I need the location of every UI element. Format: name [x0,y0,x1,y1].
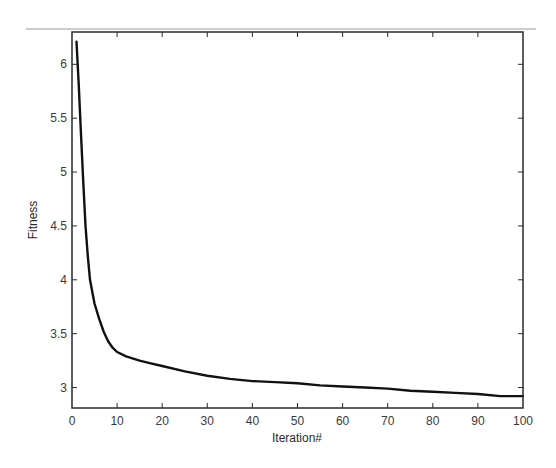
axes-box [72,32,523,408]
x-tick-label: 10 [110,414,124,428]
x-tick-label: 80 [426,414,440,428]
fitness-line [77,42,524,396]
y-tick-label: 5.5 [50,111,67,125]
y-axis-label: Fitness [26,201,40,240]
y-tick-label: 4.5 [50,219,67,233]
y-tick-label: 3 [60,381,67,395]
plot-area [77,42,524,396]
x-tick-label: 20 [156,414,170,428]
y-axis-ticks: 33.544.555.56 [50,57,523,394]
x-tick-label: 30 [201,414,215,428]
x-tick-label: 100 [513,414,533,428]
y-tick-label: 3.5 [50,327,67,341]
x-tick-label: 0 [69,414,76,428]
x-tick-label: 50 [291,414,305,428]
x-axis-label: Iteration# [272,431,322,445]
x-tick-label: 40 [246,414,260,428]
x-tick-label: 90 [471,414,485,428]
x-tick-label: 60 [336,414,350,428]
fitness-chart: 0102030405060708090100 33.544.555.56 Ite… [0,0,556,468]
y-tick-label: 5 [60,165,67,179]
x-tick-label: 70 [381,414,395,428]
y-tick-label: 4 [60,273,67,287]
x-axis-ticks: 0102030405060708090100 [69,32,534,428]
y-tick-label: 6 [60,57,67,71]
